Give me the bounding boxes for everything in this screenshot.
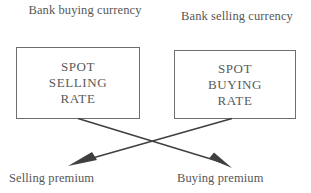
arrow-selling-rate-to-buying-premium	[78, 119, 232, 169]
connector-arrows	[0, 0, 311, 193]
arrow-line-down-left	[82, 119, 232, 162]
label-buying-premium: Buying premium	[177, 171, 263, 186]
label-selling-premium: Selling premium	[9, 171, 94, 186]
arrowhead-down-left	[68, 152, 97, 166]
diagram-canvas: Bank buying currency Bank selling curren…	[0, 0, 311, 193]
arrow-buying-rate-to-selling-premium	[68, 119, 232, 167]
